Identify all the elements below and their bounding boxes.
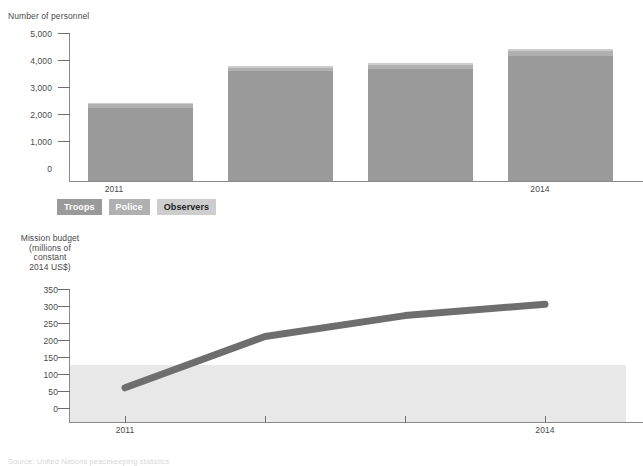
bar-chart-legend: Troops Police Observers	[57, 199, 216, 215]
legend-item-police[interactable]: Police	[109, 199, 150, 215]
legend-item-observers[interactable]: Observers	[157, 199, 216, 215]
bar-2014[interactable]	[508, 49, 613, 181]
bar-2011[interactable]	[88, 103, 193, 181]
bar-segment-troops	[88, 108, 193, 181]
bar-series-layer	[0, 0, 643, 182]
line-xtick-2014: 2014	[515, 426, 575, 435]
bar-segment-troops	[508, 56, 613, 181]
bar-segment-troops	[228, 71, 333, 181]
source-note: Source: United Nations peacekeeping stat…	[8, 457, 169, 466]
personnel-bar-chart: Number of personnel 5,000 4,000 3,000 2,…	[0, 0, 643, 195]
line-xtick-2011: 2011	[95, 426, 155, 435]
bar-segment-troops	[368, 69, 473, 181]
legend-item-troops[interactable]: Troops	[57, 199, 102, 215]
bar-2013[interactable]	[368, 63, 473, 181]
bar-xtick-2014: 2014	[510, 185, 570, 194]
bar-xtick-2011: 2011	[84, 185, 144, 194]
bar-2012[interactable]	[228, 66, 333, 181]
mission-budget-line-chart: Mission budget (millions of constant 201…	[0, 230, 643, 465]
